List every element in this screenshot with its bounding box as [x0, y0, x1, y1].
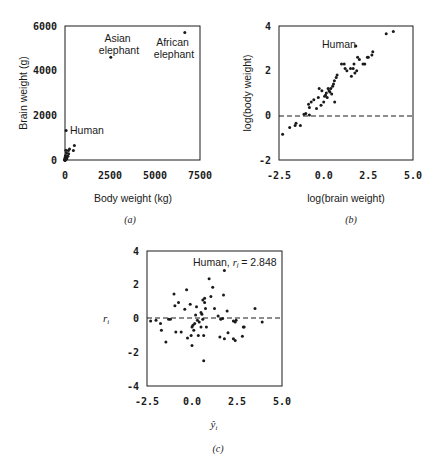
- data-point: [155, 319, 158, 322]
- data-point: [189, 303, 192, 306]
- data-point: [371, 50, 374, 53]
- data-point: [73, 144, 76, 147]
- data-point: [183, 308, 186, 311]
- caption-c: (c): [212, 443, 224, 455]
- data-point: [209, 295, 212, 298]
- data-point: [363, 63, 366, 66]
- data-point: [241, 335, 244, 338]
- x-tick-label: 0: [62, 170, 68, 181]
- data-point: [392, 30, 395, 33]
- data-point: [308, 113, 311, 116]
- data-point: [320, 104, 323, 107]
- x-axis-label-b: log(brain weight): [307, 192, 385, 204]
- data-point: [173, 293, 176, 296]
- tick-labels-c: -2.50.02.55.0-4-2024: [127, 246, 291, 408]
- x-tick-label: 2500: [98, 170, 122, 181]
- data-point: [149, 320, 152, 323]
- x-tick-label: 7500: [188, 170, 212, 181]
- data-point: [183, 31, 186, 34]
- data-point: [218, 336, 221, 339]
- data-point: [160, 329, 163, 332]
- y-tick-label: 4: [265, 21, 271, 32]
- panel-b: -2.50.02.55.0-2024 Human log(brain weigh…: [222, 0, 444, 225]
- data-point: [322, 100, 325, 103]
- data-point: [208, 277, 211, 280]
- caption-a: (a): [124, 214, 136, 225]
- data-point: [307, 103, 310, 106]
- data-point: [353, 63, 356, 66]
- annotation-human-a: Human: [70, 124, 104, 136]
- data-point: [180, 331, 183, 334]
- y-tick-label: 4: [133, 246, 139, 257]
- data-point: [195, 305, 198, 308]
- data-point: [330, 93, 333, 96]
- data-point: [192, 329, 195, 332]
- data-point: [217, 315, 220, 318]
- x-tick-label: 5.0: [273, 396, 291, 407]
- y-tick-label: 6000: [33, 21, 57, 32]
- data-point: [312, 98, 315, 101]
- data-point: [204, 307, 207, 310]
- data-point: [159, 322, 162, 325]
- x-tick-label: 2.5: [359, 170, 377, 181]
- data-point: [325, 92, 328, 95]
- y-tick-label: 2000: [33, 110, 57, 121]
- data-point: [72, 149, 75, 152]
- data-point: [367, 56, 370, 59]
- data-point: [223, 269, 226, 272]
- data-point: [326, 96, 329, 99]
- data-point: [65, 129, 68, 132]
- data-point: [109, 56, 112, 59]
- data-point: [299, 124, 302, 127]
- data-point: [169, 318, 172, 321]
- data-point: [315, 107, 318, 110]
- data-point: [349, 67, 352, 70]
- y-tick-label: 0: [133, 313, 139, 324]
- scatter-plot-c: -2.50.02.55.0-4-2024 Human, ri = 2.848 ŷ…: [0, 225, 444, 466]
- data-point: [343, 63, 346, 66]
- data-point: [304, 112, 307, 115]
- data-point: [243, 325, 246, 328]
- data-points-c: [149, 269, 264, 362]
- data-point: [295, 122, 298, 125]
- data-point: [332, 83, 335, 86]
- annotation-african-line2: elephant: [154, 48, 194, 60]
- data-point: [222, 293, 225, 296]
- x-tick-label: -2.5: [267, 170, 291, 181]
- data-point: [254, 307, 257, 310]
- data-point: [317, 96, 320, 99]
- data-point: [308, 106, 311, 109]
- y-tick-label: 0: [265, 110, 271, 121]
- annotation-asian-line2: elephant: [99, 44, 139, 56]
- y-tick-label: -2: [259, 155, 271, 166]
- annotation-human-b: Human: [322, 38, 356, 50]
- data-point: [194, 314, 197, 317]
- data-point: [345, 69, 348, 72]
- data-point: [352, 67, 355, 70]
- panel-a: 02500500075000200040006000 Asian elephan…: [0, 0, 222, 225]
- data-point: [202, 334, 205, 337]
- data-point: [226, 309, 229, 312]
- data-point: [234, 339, 237, 342]
- annotation-african-line1: African: [156, 36, 189, 48]
- data-point: [202, 359, 205, 362]
- data-point: [385, 32, 388, 35]
- data-point: [318, 87, 321, 90]
- data-point: [64, 149, 67, 152]
- data-point: [358, 58, 361, 61]
- x-tick-label: 2.5: [228, 396, 246, 407]
- y-tick-label: 0: [51, 155, 57, 166]
- caption-b: (b): [345, 214, 357, 225]
- data-point: [261, 320, 264, 323]
- data-point: [193, 322, 196, 325]
- annotation-asian-elephant: Asian elephant: [99, 32, 139, 56]
- data-point: [235, 319, 238, 322]
- x-tick-label: -2.5: [135, 396, 159, 407]
- data-point: [288, 126, 291, 129]
- data-point: [186, 336, 189, 339]
- data-point: [197, 334, 200, 337]
- data-point: [173, 304, 176, 307]
- x-axis-label-a: Body weight (kg): [94, 192, 172, 204]
- x-tick-label: 5.0: [404, 170, 422, 181]
- data-point: [205, 325, 208, 328]
